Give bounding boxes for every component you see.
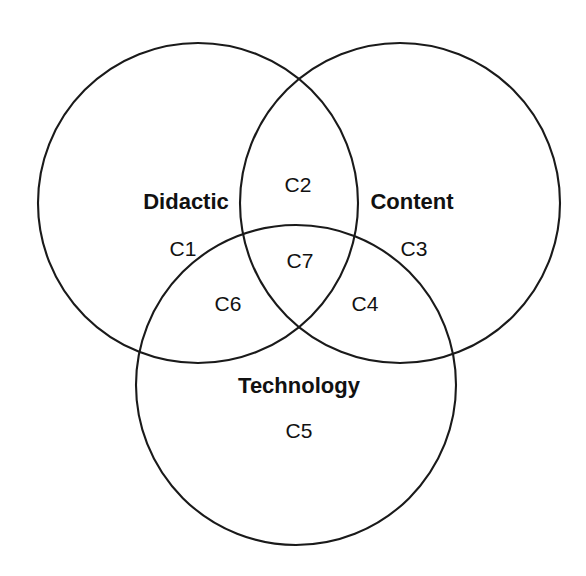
venn-diagram-canvas: Didactic Content Technology C1 C2 C3 C4 … — [0, 0, 586, 576]
set-title-content: Content — [370, 189, 454, 214]
region-label-c7: C7 — [287, 249, 314, 272]
region-label-c6: C6 — [215, 292, 242, 315]
set-title-technology: Technology — [238, 373, 361, 398]
region-label-c5: C5 — [286, 419, 313, 442]
region-label-c3: C3 — [401, 237, 428, 260]
region-label-c4: C4 — [352, 292, 379, 315]
set-title-didactic: Didactic — [143, 189, 229, 214]
region-label-c1: C1 — [170, 237, 197, 260]
region-label-c2: C2 — [285, 173, 312, 196]
venn-diagram-svg: Didactic Content Technology C1 C2 C3 C4 … — [0, 0, 586, 576]
